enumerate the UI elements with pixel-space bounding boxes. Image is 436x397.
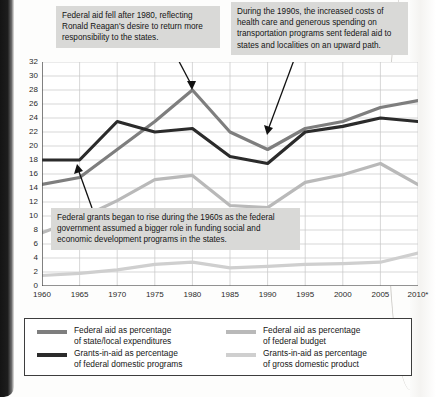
legend-label-line2: of federal budget (263, 336, 326, 346)
callout-reagan-text: Federal aid fell after 1980, reflecting … (62, 10, 214, 44)
y-tick-label: 28 (16, 86, 38, 94)
callout-nineties: During the 1990s, the increased costs of… (231, 2, 408, 55)
legend-item: Grants-in-aid as percentage of gross dom… (220, 348, 405, 370)
legend-swatch-icon (37, 353, 67, 357)
x-tick-label: 2010* (398, 291, 436, 299)
x-tick-label: 1990 (248, 291, 288, 299)
chart-page: PERCENTAGE 0246810121416182022242 (0, 0, 436, 397)
legend-label-line1: Federal aid as percentage (263, 325, 360, 335)
legend-label-line1: Grants-in-aid as percentage (263, 348, 367, 358)
legend-item-label: Federal aid as percentage of state/local… (74, 325, 171, 347)
legend-swatch-icon (37, 330, 67, 334)
legend-item-label: Federal aid as percentage of federal bud… (263, 325, 360, 347)
y-tick-label: 16 (16, 170, 38, 178)
legend-swatch-icon (226, 330, 256, 334)
legend-item: Federal aid as percentage of federal bud… (220, 325, 405, 347)
y-tick-label: 8 (16, 226, 38, 234)
y-tick-label: 24 (16, 114, 38, 122)
x-tick-label: 2005 (360, 291, 400, 299)
legend-label-line1: Grants-in-aid as percentage (74, 348, 178, 358)
legend-item: Grants-in-aid as percentage of federal d… (31, 348, 216, 370)
legend-item-label: Grants-in-aid as percentage of federal d… (74, 348, 182, 370)
callout-reagan: Federal aid fell after 1980, reflecting … (56, 6, 220, 48)
y-tick-label: 32 (16, 58, 38, 66)
y-tick-label: 6 (16, 240, 38, 248)
x-tick-label: 1985 (210, 291, 250, 299)
chart-legend: Federal aid as percentage of state/local… (24, 318, 412, 376)
y-tick-label: 0 (16, 282, 38, 290)
x-tick-label: 2000 (323, 291, 363, 299)
y-tick-label: 30 (16, 72, 38, 80)
x-tick-label: 1980 (172, 291, 212, 299)
legend-item: Federal aid as percentage of state/local… (31, 325, 216, 347)
plot-area: 02468101214161820222426283032 1960196519… (42, 62, 418, 286)
callout-grants: Federal grants began to rise during the … (51, 208, 300, 250)
legend-label-line1: Federal aid as percentage (74, 325, 171, 335)
y-tick-label: 26 (16, 100, 38, 108)
legend-swatch-icon (226, 353, 256, 357)
y-tick-label: 18 (16, 156, 38, 164)
callout-grants-text: Federal grants began to rise during the … (57, 212, 294, 246)
legend-item-label: Grants-in-aid as percentage of gross dom… (263, 348, 367, 370)
legend-label-line2: of state/local expenditures (74, 336, 171, 346)
x-tick-label: 1995 (285, 291, 325, 299)
line-chart-svg (42, 62, 418, 286)
book-spine-edge (0, 0, 14, 397)
y-tick-label: 2 (16, 268, 38, 276)
y-tick-label: 4 (16, 254, 38, 262)
x-tick-label: 1965 (60, 291, 100, 299)
x-tick-label: 1970 (97, 291, 137, 299)
callout-nineties-text: During the 1990s, the increased costs of… (237, 6, 402, 51)
legend-label-line2: of gross domestic product (263, 359, 359, 369)
y-tick-label: 14 (16, 184, 38, 192)
legend-label-line2: of federal domestic programs (74, 359, 182, 369)
y-tick-label: 12 (16, 198, 38, 206)
y-tick-label: 20 (16, 142, 38, 150)
x-tick-label: 1975 (135, 291, 175, 299)
x-tick-label: 1960 (22, 291, 62, 299)
y-tick-label: 22 (16, 128, 38, 136)
y-tick-label: 10 (16, 212, 38, 220)
